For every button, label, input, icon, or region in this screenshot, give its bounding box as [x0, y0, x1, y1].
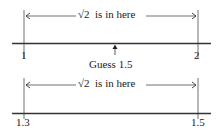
range-text-2: √2 is in here — [78, 78, 135, 89]
guess-label: Guess 1.5 — [89, 59, 132, 70]
range-caption: is in here — [95, 8, 135, 20]
left-tick-label-2: 1.3 — [16, 117, 30, 128]
range-caption: is in here — [95, 77, 135, 89]
left-tick-label-1: 1 — [21, 50, 27, 61]
sqrt2-symbol: √2 — [78, 77, 90, 89]
sqrt2-symbol: √2 — [78, 8, 90, 20]
range-text-1: √2 is in here — [78, 9, 135, 20]
right-tick-label-1: 2 — [194, 50, 200, 61]
right-tick-label-2: 1.5 — [191, 117, 205, 128]
